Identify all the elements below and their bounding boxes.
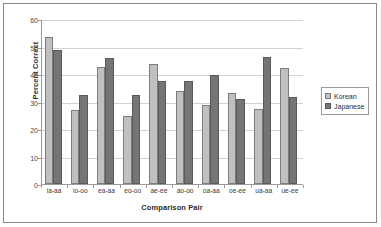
x-axis-tick-label: eo-oo bbox=[120, 188, 146, 195]
bar-group bbox=[173, 20, 199, 184]
chart-legend: KoreanJapanese bbox=[321, 87, 369, 115]
y-axis-tick-label: 50 bbox=[10, 44, 38, 51]
chart-frame: Percent Correct 0102030405060 ia-aaio-oo… bbox=[3, 3, 377, 223]
x-axis-tick-label: io-oo bbox=[67, 188, 93, 195]
x-axis-tick-label: ia-aa bbox=[41, 188, 67, 195]
y-axis-tick-label: 30 bbox=[10, 99, 38, 106]
bar-japanese-ue-ee bbox=[289, 97, 298, 184]
y-axis-tick-label: 0 bbox=[10, 182, 38, 189]
bar-japanese-ia-aa bbox=[53, 50, 62, 184]
bar-korean-eo-oo bbox=[123, 116, 132, 184]
y-axis-tick-label: 40 bbox=[10, 72, 38, 79]
bar-korean-oa-aa bbox=[202, 105, 211, 184]
bar-group bbox=[199, 20, 225, 184]
bar-japanese-ao-oo bbox=[184, 81, 193, 184]
bar-japanese-oa-aa bbox=[210, 75, 219, 184]
legend-item-korean[interactable]: Korean bbox=[325, 91, 364, 101]
legend-swatch-icon bbox=[325, 103, 331, 109]
x-axis-tick-label: ae-ee bbox=[146, 188, 172, 195]
bar-korean-ia-aa bbox=[45, 37, 54, 184]
x-axis-tick-label: ue-ee bbox=[277, 188, 303, 195]
bar-group bbox=[147, 20, 173, 184]
plot-area bbox=[41, 20, 303, 185]
legend-item-japanese[interactable]: Japanese bbox=[325, 101, 364, 111]
y-axis-tick-label: 60 bbox=[10, 17, 38, 24]
y-axis-tick-label: 10 bbox=[10, 154, 38, 161]
x-axis-tick-label: ao-oo bbox=[172, 188, 198, 195]
x-axis-title: Comparison Pair bbox=[41, 203, 303, 212]
bar-korean-ua-aa bbox=[254, 109, 263, 184]
bar-group bbox=[225, 20, 251, 184]
legend-label: Korean bbox=[334, 93, 357, 100]
bar-japanese-ea-aa bbox=[105, 58, 114, 184]
bar-korean-ea-aa bbox=[97, 67, 106, 184]
bar-korean-ao-oo bbox=[176, 91, 185, 185]
legend-swatch-icon bbox=[325, 93, 331, 99]
bar-group bbox=[68, 20, 94, 184]
chart-figure: Percent Correct 0102030405060 ia-aaio-oo… bbox=[0, 0, 381, 227]
x-axis-tick-label: oa-aa bbox=[198, 188, 224, 195]
bar-japanese-eo-oo bbox=[132, 95, 141, 184]
x-axis-tick-labels: ia-aaio-ooea-aaeo-ooae-eeao-oooa-aaoe-ee… bbox=[41, 188, 303, 200]
bar-japanese-io-oo bbox=[79, 95, 88, 184]
bar-korean-io-oo bbox=[71, 110, 80, 184]
x-axis-tick-label: ea-aa bbox=[93, 188, 119, 195]
bar-japanese-ae-ee bbox=[158, 81, 167, 184]
bar-group bbox=[278, 20, 304, 184]
bar-japanese-oe-ee bbox=[236, 99, 245, 184]
bar-korean-ue-ee bbox=[280, 68, 289, 184]
bars-layer bbox=[42, 20, 303, 184]
bar-group bbox=[94, 20, 120, 184]
x-axis-tick-label: oe-ee bbox=[224, 188, 250, 195]
y-axis-tick-label: 20 bbox=[10, 127, 38, 134]
bar-japanese-ua-aa bbox=[263, 57, 272, 184]
y-axis-tick-labels: 0102030405060 bbox=[6, 20, 38, 185]
bar-group bbox=[42, 20, 68, 184]
bar-group bbox=[121, 20, 147, 184]
x-axis-tick-label: ua-aa bbox=[251, 188, 277, 195]
bar-korean-oe-ee bbox=[228, 93, 237, 184]
bar-group bbox=[252, 20, 278, 184]
legend-label: Japanese bbox=[334, 103, 364, 110]
bar-korean-ae-ee bbox=[149, 64, 158, 184]
x-axis-tick-mark bbox=[303, 185, 304, 188]
